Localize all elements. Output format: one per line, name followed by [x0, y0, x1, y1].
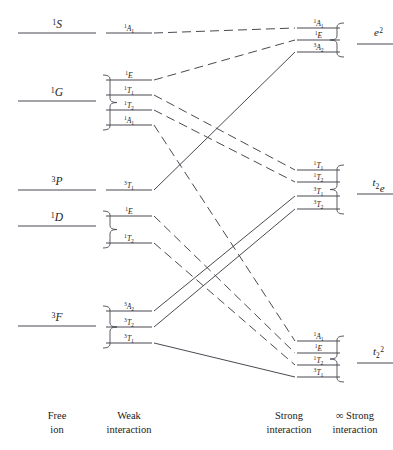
weak-field-term-label: 3T1	[124, 180, 134, 191]
strong-field-term-label: 3A2	[313, 42, 323, 53]
strong-field-term-label: 1T1	[314, 160, 324, 171]
diagram-canvas: 1S1G3P1D3F 1A11E1T11T21A13T11E1T23A23T23…	[0, 0, 393, 450]
strong-field-term-label: 1T2	[314, 355, 324, 366]
weak-field-level-w8: 1T2	[106, 233, 152, 244]
configuration-e2: e2	[357, 26, 393, 45]
strong-field-level-s7: 3T2	[297, 199, 340, 210]
free-ion-term-label: 1D	[51, 211, 64, 224]
strong-field-term-label: 3T2	[314, 199, 324, 210]
braces-group	[103, 23, 344, 382]
correlation-line-w6-s3	[154, 52, 295, 190]
weak-field-level-w2: 1E	[106, 70, 152, 81]
brace-strong-t2e	[330, 165, 344, 214]
configuration-group: e2t2et22	[357, 26, 393, 364]
strong-field-term-label: 3T1	[314, 186, 324, 197]
weak-field-level-w10: 3T2	[106, 317, 152, 328]
strong-field-level-s10: 1T2	[297, 355, 340, 366]
configuration-label: t22	[373, 345, 384, 360]
strong-field-level-s6: 3T1	[297, 186, 340, 197]
correlation-line-w2-s2	[154, 40, 295, 80]
free-ion-term-label: 3F	[51, 311, 63, 324]
weak-field-term-label: 3A2	[124, 301, 134, 312]
weak-field-term-label: 3T1	[124, 333, 134, 344]
caption-line-1: Weak	[117, 410, 141, 421]
brace-weak-G1	[103, 75, 117, 130]
caption-strong-interaction: Stronginteraction	[267, 410, 313, 435]
weak-field-level-w1: 1A1	[106, 23, 152, 34]
weak-field-level-w4: 1T2	[106, 100, 152, 111]
free-ion-levels-group: 1S1G3P1D3F	[18, 18, 96, 327]
free-ion-term-label: 1G	[51, 86, 64, 99]
strong-field-term-label: 1A1	[313, 331, 323, 342]
strong-field-level-s4: 1T1	[297, 160, 340, 171]
free-ion-level-1G: 1G	[18, 86, 96, 102]
configuration-t22: t22	[357, 345, 393, 364]
caption-free-ion: Freeion	[48, 410, 67, 435]
free-ion-level-3F: 3F	[18, 311, 96, 327]
correlation-line-w10-s7	[154, 209, 295, 327]
correlation-lines-group	[154, 28, 295, 377]
correlation-line-w7-s9	[154, 216, 295, 353]
free-ion-term-label: 1S	[52, 18, 62, 31]
weak-field-level-w3: 1T1	[106, 85, 152, 96]
strong-field-term-label: 3T1	[314, 367, 324, 378]
strong-field-level-s2: 1E	[297, 30, 340, 41]
correlation-diagram: 1S1G3P1D3F 1A11E1T11T21A13T11E1T23A23T23…	[0, 0, 393, 450]
correlation-line-w5-s8	[154, 125, 295, 341]
correlation-line-w1-s1	[154, 28, 295, 33]
strong-field-term-label: 1E	[315, 30, 323, 40]
brace-weak-D1	[103, 211, 117, 248]
strong-field-term-label: 1E	[315, 343, 323, 353]
weak-field-level-w6: 3T1	[106, 180, 152, 191]
configuration-label: t2e	[372, 176, 384, 194]
correlation-line-w11-s11	[154, 343, 295, 377]
strong-field-level-s3: 3A2	[297, 42, 340, 53]
weak-field-level-w5: 1A1	[106, 115, 152, 126]
weak-field-level-w9: 3A2	[106, 301, 152, 312]
weak-field-level-w11: 3T1	[106, 333, 152, 344]
weak-field-term-label: 1T2	[124, 100, 134, 111]
configuration-t2e: t2e	[357, 176, 393, 194]
caption-line-1: ∞ Strong	[336, 410, 375, 421]
caption-line-2: ion	[50, 424, 64, 435]
strong-field-term-label: 1A1	[313, 18, 323, 29]
strong-field-level-s1: 1A1	[297, 18, 340, 29]
caption-line-2: interaction	[107, 424, 153, 435]
strong-field-term-label: 1T2	[314, 172, 324, 183]
free-ion-term-label: 3P	[51, 175, 62, 188]
correlation-line-w8-s10	[154, 243, 295, 365]
caption-line-1: Strong	[275, 410, 304, 421]
strong-field-level-s5: 1T2	[297, 172, 340, 183]
caption-line-1: Free	[48, 410, 67, 421]
free-ion-level-1S: 1S	[18, 18, 96, 34]
weak-field-term-label: 1A1	[124, 23, 134, 34]
weak-field-term-label: 1T2	[124, 233, 134, 244]
strong-field-level-s9: 1E	[297, 343, 340, 354]
strong-field-level-s8: 1A1	[297, 331, 340, 342]
weak-field-term-label: 1E	[125, 206, 133, 216]
captions-group: FreeionWeakinteractionStronginteraction∞…	[48, 410, 379, 435]
caption-line-2: interaction	[333, 424, 379, 435]
strong-field-levels-group: 1A11E3A21T11T23T13T21A11E1T23T1	[297, 18, 340, 378]
weak-field-term-label: 1E	[125, 70, 133, 80]
weak-field-level-w7: 1E	[106, 206, 152, 217]
caption-weak-interaction: Weakinteraction	[107, 410, 153, 435]
weak-field-levels-group: 1A11E1T11T21A13T11E1T23A23T23T1	[106, 23, 152, 344]
configuration-label: e2	[374, 26, 383, 39]
weak-field-term-label: 1A1	[124, 115, 134, 126]
weak-field-term-label: 1T1	[124, 85, 134, 96]
strong-field-level-s11: 3T1	[297, 367, 340, 378]
free-ion-level-3P: 3P	[18, 175, 96, 191]
weak-field-term-label: 3T2	[124, 317, 134, 328]
free-ion-level-1D: 1D	[18, 211, 96, 227]
brace-strong-t22	[330, 336, 344, 382]
correlation-line-w3-s4	[154, 95, 295, 170]
caption-infinite-strong: ∞ Stronginteraction	[333, 410, 379, 435]
caption-line-2: interaction	[267, 424, 313, 435]
correlation-line-w9-s6	[154, 196, 295, 311]
